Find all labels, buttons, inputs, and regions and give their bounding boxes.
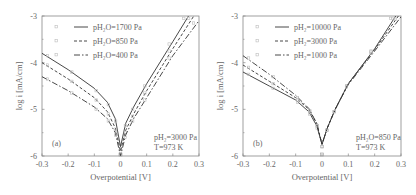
data-marker [168,57,170,59]
x-tick-label: -0.2 [62,160,75,169]
x-tick-label: 0 [320,160,324,169]
x-tick-label: -0.1 [88,160,101,169]
legend-label: pH₂=10000 Pa [294,23,342,32]
figure: -0.3-0.2-0.100.10.20.3-3-4-5-6Overpotent… [0,0,416,195]
legend-marker [256,26,258,28]
y-tick-label: -5 [231,105,238,114]
legend-marker [55,40,57,42]
y-tick-label: -5 [30,105,37,114]
legend-marker [256,54,258,56]
x-tick-label: 0.3 [396,160,406,169]
legend-marker [55,26,57,28]
legend-label: pH₂=1000 Pa [294,51,338,60]
y-tick-label: -3 [231,12,238,21]
panel-label: (b) [253,139,263,148]
series-line-1 [42,16,189,147]
y-tick-label: -6 [231,152,238,161]
x-tick-label: 0.2 [168,160,178,169]
panel-label: (a) [52,139,61,148]
data-marker [168,50,170,52]
condition-note-line-2: T=973 K [154,143,183,152]
x-tick-label: 0.1 [142,160,152,169]
data-marker [389,17,391,19]
legend-marker [55,54,57,56]
panel-a: -0.3-0.2-0.100.10.20.3-3-4-5-6Overpotent… [14,12,204,182]
x-axis-title: Overpotential [V] [90,172,151,182]
x-tick-label: 0.1 [343,160,353,169]
condition-note-line-1: pH₂=3000 Pa [154,133,198,142]
x-tick-label: -0.3 [36,160,49,169]
x-axis-title: Overpotential [V] [292,172,353,182]
legend-label: pH₂O=400 Pa [93,51,138,60]
legend-label: pH₂=3000 Pa [294,37,338,46]
x-tick-label: 0.2 [370,160,380,169]
x-tick-label: -0.3 [237,160,250,169]
legend: pH₂=10000 PapH₂=3000 PapH₂=1000 Pa [256,23,342,60]
legend-label: pH₂O=1700 Pa [93,23,142,32]
y-axis-title: log i [mA/cm] [14,62,24,111]
data-marker [192,22,194,24]
x-tick-label: 0 [119,160,123,169]
data-marker [183,17,185,19]
y-tick-label: -3 [30,12,37,21]
series-line-2 [243,16,398,144]
x-tick-label: -0.2 [263,160,276,169]
y-axis-title: log i [mA/cm] [215,62,225,111]
condition-note-line-2: T=973 K [356,143,385,152]
y-tick-label: -4 [30,59,37,68]
series-line-1 [243,16,396,144]
condition-note-line-1: pH₂O=850 Pa [356,133,401,142]
series-line-3 [243,17,401,144]
y-tick-label: -4 [231,59,238,68]
y-tick-label: -6 [30,152,37,161]
x-tick-label: 0.3 [194,160,204,169]
data-marker [321,145,323,147]
data-marker [321,145,323,147]
x-tick-label: -0.1 [289,160,302,169]
data-marker [321,145,323,147]
data-marker [168,43,170,45]
panel-b: -0.3-0.2-0.100.10.20.3-3-4-5-6Overpotent… [215,12,406,182]
legend-label: pH₂O=850 Pa [93,37,138,46]
legend-marker [256,40,258,42]
legend: pH₂O=1700 PapH₂O=850 PapH₂O=400 Pa [55,23,142,60]
